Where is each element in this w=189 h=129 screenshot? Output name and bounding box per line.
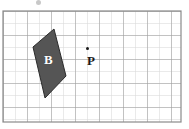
shape-b-label: B [44, 53, 53, 66]
geometry-figure: B P [0, 0, 189, 129]
point-p-dot [86, 47, 89, 50]
point-p-label: P [87, 54, 95, 67]
